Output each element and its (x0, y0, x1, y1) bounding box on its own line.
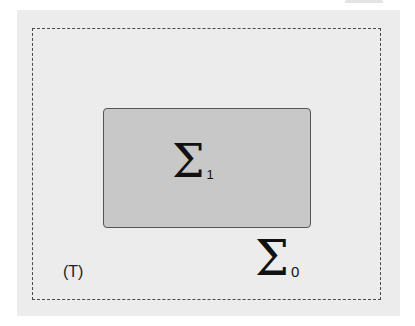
sigma-0-subscript: 0 (291, 263, 299, 280)
sigma-0-label: Σ0 (255, 234, 297, 282)
top-edge-bar (345, 0, 383, 3)
t-label: (T) (63, 263, 83, 281)
sigma-0-symbol: Σ (255, 230, 289, 286)
sigma-1-symbol: Σ (172, 134, 205, 188)
sigma-1-subscript: 1 (207, 167, 214, 182)
sigma-1-label: Σ1 (172, 138, 212, 184)
